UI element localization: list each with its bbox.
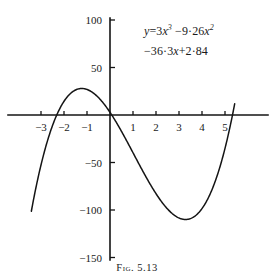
x-tick-label: 1 xyxy=(130,122,136,133)
x-tick-label: −2 xyxy=(58,122,70,133)
x-tick-label: 2 xyxy=(153,122,159,133)
equation-term1-exponent: 3 xyxy=(168,23,172,32)
equation-line-2: −36·3x+2·84 xyxy=(144,42,214,62)
x-tick-label: 4 xyxy=(199,122,205,133)
y-tick-label: −50 xyxy=(0,157,102,168)
x-tick-label: −1 xyxy=(81,122,93,133)
x-tick-label: 5 xyxy=(222,122,228,133)
cubic-curve xyxy=(31,89,234,220)
figure-caption: Fig. 5.13 xyxy=(0,262,274,273)
equation-term4-const: +2·84 xyxy=(179,44,208,58)
equation-term2-coef: −9·26 xyxy=(175,24,204,38)
equation-term2-exponent: 2 xyxy=(210,23,214,32)
caption-number: 5.13 xyxy=(137,262,157,273)
axes-group xyxy=(8,18,268,260)
equation-line-1: y=3x3 −9·26x2 xyxy=(144,22,214,42)
y-tick-label: 100 xyxy=(0,15,102,26)
plot-area xyxy=(0,0,274,279)
x-tick-label: −3 xyxy=(35,122,47,133)
caption-prefix: Fig. xyxy=(116,262,134,273)
figure-container: −3−2−112345 10050−50−100−150 y=3x3 −9·26… xyxy=(0,0,274,279)
y-tick-label: 50 xyxy=(0,62,102,73)
y-tick-label: −100 xyxy=(0,205,102,216)
equation-term3-coef: −36·3 xyxy=(144,44,173,58)
equation-annotation: y=3x3 −9·26x2 −36·3x+2·84 xyxy=(144,22,214,62)
x-tick-label: 3 xyxy=(176,122,182,133)
